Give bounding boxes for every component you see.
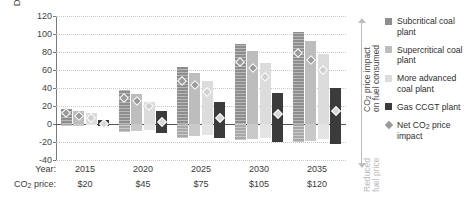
bar-sub[interactable]	[293, 16, 304, 160]
legend-item-label: Supercritical coal plant	[397, 45, 462, 66]
legend-item[interactable]: Supercritical coal plant	[385, 45, 468, 66]
chart-root: Dollars per MWh -40-20020406080100120 Ye…	[0, 0, 468, 215]
y-tick-label: 40	[42, 83, 52, 93]
bar-sup[interactable]	[305, 16, 316, 160]
co2-price-row-label: CO2 price:	[14, 179, 56, 189]
legend-item-label: Gas CCGT plant	[397, 102, 460, 112]
bar-group	[230, 16, 288, 160]
co2-price-cell: $75	[193, 179, 208, 189]
bar-sub[interactable]	[119, 16, 130, 160]
bar-adv[interactable]	[318, 16, 329, 160]
bar-adv[interactable]	[144, 16, 155, 160]
bar-negative-segment	[260, 124, 271, 138]
year-row-label: Year:	[35, 164, 56, 174]
bar-gas[interactable]	[272, 16, 283, 160]
legend-item[interactable]: Subcritical coal plant	[385, 16, 468, 37]
year-cell: 2030	[249, 164, 269, 174]
bar-gas[interactable]	[214, 16, 225, 160]
bar-positive-segment	[305, 41, 316, 124]
bar-adv[interactable]	[260, 16, 271, 160]
co2-price-cell: $45	[135, 179, 150, 189]
gridline	[56, 160, 346, 161]
legend-item-label: Subcritical coal plant	[397, 16, 455, 37]
bar-negative-segment	[202, 124, 213, 135]
right-axis-upper-label-line2: on fuel consumed	[372, 45, 382, 112]
year-row: Year: 20152020202520302035	[0, 164, 352, 179]
bar-group	[56, 16, 114, 160]
co2-price-cell: $105	[249, 179, 269, 189]
bar-gas[interactable]	[330, 16, 341, 160]
bar-sup[interactable]	[247, 16, 258, 160]
legend-item-label: Net CO2 price impact	[397, 120, 451, 142]
bar-positive-segment	[293, 32, 304, 124]
x-axis-table: Year: 20152020202520302035 CO2 price: $2…	[0, 164, 352, 194]
bar-gas[interactable]	[98, 16, 109, 160]
bar-negative-segment	[189, 124, 200, 136]
bar-sub[interactable]	[177, 16, 188, 160]
bar-negative-segment	[318, 124, 329, 139]
year-cell: 2025	[191, 164, 211, 174]
bar-negative-segment	[330, 124, 341, 144]
bar-sup[interactable]	[73, 16, 84, 160]
y-tick-label: 100	[37, 29, 52, 39]
y-tick-label: 60	[42, 65, 52, 75]
right-axis-lower-label-line2: fuel price	[372, 158, 382, 193]
co2-price-row: CO2 price: $20$45$75$105$120	[0, 179, 352, 194]
bar-negative-segment	[86, 124, 97, 125]
legend-item[interactable]: More advanced coal plant	[385, 73, 468, 94]
bar-adv[interactable]	[86, 16, 97, 160]
legend-item-label: More advanced coal plant	[397, 73, 456, 94]
year-cell: 2035	[307, 164, 327, 174]
bar-negative-segment	[119, 124, 130, 132]
bar-negative-segment	[235, 124, 246, 140]
bar-negative-segment	[247, 124, 258, 139]
bar-group	[288, 16, 346, 160]
legend-swatch-icon	[385, 18, 392, 25]
bar-positive-segment	[235, 44, 246, 124]
bar-group	[172, 16, 230, 160]
y-tick-label: 20	[42, 101, 52, 111]
legend-item[interactable]: Gas CCGT plant	[385, 102, 468, 113]
y-tick-label: 120	[37, 11, 52, 21]
bar-negative-segment	[177, 124, 188, 138]
bar-group	[114, 16, 172, 160]
legend-swatch-icon	[385, 46, 392, 53]
bar-negative-segment	[61, 124, 72, 126]
plot-area: -40-20020406080100120	[56, 16, 346, 160]
chart-legend: Subcritical coal plantSupercritical coal…	[385, 16, 468, 149]
bar-gas[interactable]	[156, 16, 167, 160]
y-tick-label: -20	[39, 137, 52, 147]
legend-swatch-icon	[385, 75, 392, 82]
year-cell: 2015	[75, 164, 95, 174]
y-tick-label: 80	[42, 47, 52, 57]
y-axis-title: Dollars per MWh	[11, 0, 25, 14]
bar-negative-segment	[305, 124, 316, 141]
bar-negative-segment	[131, 124, 142, 131]
bar-negative-segment	[73, 124, 84, 126]
y-tick-mark	[53, 160, 56, 161]
bar-sup[interactable]	[131, 16, 142, 160]
bar-negative-segment	[214, 124, 225, 138]
arrow-up-icon	[358, 18, 366, 23]
legend-item[interactable]: Net CO2 price impact	[385, 120, 468, 142]
co2-price-cell: $20	[77, 179, 92, 189]
year-cell: 2020	[133, 164, 153, 174]
bar-negative-segment	[272, 124, 283, 142]
bar-negative-segment	[144, 124, 155, 130]
legend-swatch-icon	[385, 103, 392, 110]
bar-sub[interactable]	[61, 16, 72, 160]
bar-negative-segment	[293, 124, 304, 142]
bar-sub[interactable]	[235, 16, 246, 160]
legend-diamond-icon	[384, 120, 392, 128]
co2-price-cell: $120	[307, 179, 327, 189]
y-tick-label: 0	[47, 119, 52, 129]
